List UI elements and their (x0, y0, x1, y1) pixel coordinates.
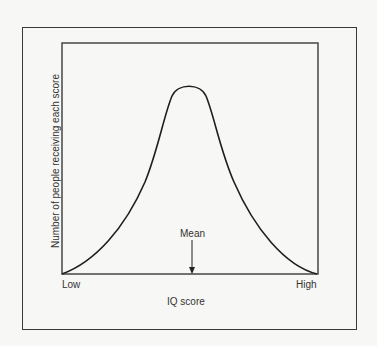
x-axis-label: IQ score (167, 296, 205, 307)
bell-curve (62, 86, 317, 274)
x-tick-low: Low (62, 279, 80, 290)
y-axis-label: Number of people receiving each score (50, 74, 61, 248)
mean-arrow-head (189, 267, 195, 274)
mean-annotation: Mean (180, 228, 205, 239)
plot-area-border (62, 43, 318, 274)
x-tick-high: High (296, 279, 317, 290)
